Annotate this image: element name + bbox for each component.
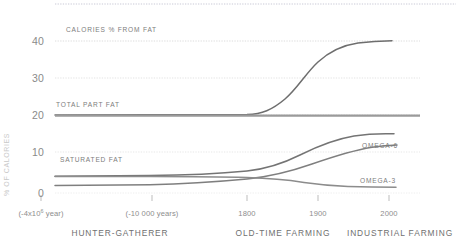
series-line-saturated-fat xyxy=(55,145,397,186)
era-label-old-time-farming: OLD-TIME FARMING xyxy=(236,228,331,238)
series-label-saturated-fat: SATURATED FAT xyxy=(60,156,123,163)
x-tick-label-4: 1900 xyxy=(309,209,326,218)
series-line-omega6 xyxy=(55,134,394,177)
x-tick-label-2: (-10 000 years) xyxy=(126,209,179,218)
era-label-industrial-farming: INDUSTRIAL FARMING xyxy=(347,228,453,238)
x-tick-label-5: 2000 xyxy=(380,209,397,218)
y-tick-label-30: 30 xyxy=(32,72,44,84)
y-tick-label-0: 0 xyxy=(38,187,44,199)
series-label-total-part-fat: TOTAL PART FAT xyxy=(56,101,120,108)
series-label-omega6: OMEGA-6 xyxy=(362,142,398,149)
chart-svg: 40 30 20 10 0 % OF CALORIES CALORIES % F… xyxy=(0,0,456,243)
y-tick-label-20: 20 xyxy=(32,109,44,121)
series-label-omega3: OMEGA-3 xyxy=(360,177,396,184)
x-axis-ticks xyxy=(41,195,389,201)
x-tick-label-3: 1800 xyxy=(238,209,255,218)
x-tick-label-1-post: year) xyxy=(44,209,64,218)
x-tick-label-1: (-4x106 year) xyxy=(18,208,64,218)
era-label-hunter-gatherer: HUNTER-GATHERER xyxy=(71,228,168,238)
nutrition-line-chart: 40 30 20 10 0 % OF CALORIES CALORIES % F… xyxy=(0,0,456,243)
series-label-calories-from-fat: CALORIES % FROM FAT xyxy=(66,26,157,33)
x-tick-label-1-pre: (-4x10 xyxy=(18,209,40,218)
y-tick-label-40: 40 xyxy=(32,35,44,47)
y-axis-title: % OF CALORIES xyxy=(3,133,10,196)
y-tick-label-10: 10 xyxy=(32,146,44,158)
